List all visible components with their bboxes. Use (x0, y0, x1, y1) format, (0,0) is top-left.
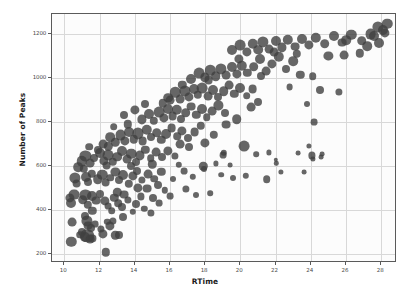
scatter-plot-figure: 20040060080010001200 1012141618202224262… (0, 0, 410, 295)
scatter-point (181, 167, 188, 174)
scatter-point (68, 218, 77, 227)
scatter-point (341, 35, 351, 45)
y-tick-mark (48, 77, 51, 78)
scatter-point (221, 109, 229, 117)
x-tick-mark (380, 262, 381, 265)
scatter-point (320, 39, 330, 49)
scatter-point (134, 183, 143, 192)
scatter-point (182, 185, 189, 192)
x-tick-mark (310, 262, 311, 265)
scatter-point (166, 96, 175, 105)
scatter-point (101, 248, 109, 256)
scatter-point (102, 161, 111, 170)
scatter-point (94, 146, 102, 154)
scatter-point (150, 117, 158, 125)
scatter-point (335, 88, 342, 95)
scatter-point (156, 200, 163, 207)
scatter-point (130, 105, 139, 114)
scatter-point (141, 100, 149, 108)
y-tick-label: 400 (21, 206, 46, 212)
y-tick-mark (48, 165, 51, 166)
scatter-point (320, 152, 325, 157)
scatter-point (266, 150, 271, 155)
x-tick-label: 10 (60, 267, 67, 273)
scatter-point (227, 163, 232, 168)
scatter-point (309, 72, 317, 80)
x-tick-label: 28 (377, 267, 384, 273)
x-tick-label: 22 (271, 267, 278, 273)
x-tick-label: 24 (306, 267, 313, 273)
scatter-point (147, 209, 154, 216)
scatter-point (110, 123, 118, 131)
x-tick-mark (134, 262, 135, 265)
scatter-point (218, 172, 224, 178)
scatter-point (172, 153, 179, 160)
x-tick-mark (169, 262, 170, 265)
scatter-point (253, 151, 259, 157)
scatter-point (310, 156, 315, 161)
scatter-point (296, 151, 301, 156)
scatter-point (282, 65, 290, 73)
scatter-point (190, 173, 196, 179)
scatter-point (311, 119, 318, 126)
scatter-point (369, 31, 379, 41)
scatter-point (141, 145, 149, 153)
scatter-point (143, 184, 152, 193)
x-tick-mark (204, 262, 205, 265)
scatter-point (118, 203, 126, 211)
gridline-horizontal (52, 210, 395, 211)
scatter-point (230, 175, 236, 181)
scatter-point (274, 161, 278, 165)
scatter-point (304, 41, 313, 50)
scatter-point (255, 54, 265, 64)
gridline-vertical (170, 14, 171, 261)
scatter-point (124, 196, 131, 203)
scatter-point (288, 57, 298, 67)
gridline-vertical (100, 14, 101, 261)
scatter-point (120, 136, 129, 145)
scatter-point (167, 124, 176, 133)
scatter-point (329, 31, 339, 41)
scatter-point (269, 47, 278, 56)
scatter-point (356, 49, 364, 57)
x-tick-mark (99, 262, 100, 265)
scatter-point (137, 193, 144, 200)
scatter-point (138, 137, 147, 146)
x-tick-label: 12 (95, 267, 102, 273)
scatter-point (238, 141, 249, 152)
scatter-point (119, 213, 127, 221)
scatter-point (154, 181, 162, 189)
scatter-point (301, 170, 306, 175)
scatter-point (278, 169, 283, 174)
scatter-point (132, 200, 140, 208)
y-tick-mark (48, 209, 51, 210)
scatter-point (254, 98, 262, 106)
scatter-point (232, 115, 242, 125)
scatter-point (72, 179, 81, 188)
y-axis-label: Number of Peaks (18, 60, 27, 200)
scatter-point (109, 217, 116, 224)
scatter-point (248, 85, 257, 94)
scatter-point (157, 167, 165, 175)
x-tick-label: 18 (201, 267, 208, 273)
scatter-point (197, 122, 205, 130)
x-tick-mark (345, 262, 346, 265)
scatter-point (76, 231, 84, 239)
scatter-point (124, 179, 132, 187)
scatter-point (286, 83, 293, 90)
scatter-point (201, 166, 207, 172)
scatter-point (98, 229, 107, 238)
scatter-point (214, 101, 223, 110)
y-tick-mark (48, 33, 51, 34)
scatter-point (340, 50, 349, 59)
scatter-point (263, 175, 271, 183)
x-tick-label: 14 (130, 267, 137, 273)
x-tick-mark (63, 262, 64, 265)
scatter-point (316, 86, 324, 94)
scatter-point (127, 162, 135, 170)
scatter-point (167, 192, 174, 199)
scatter-point (89, 235, 96, 242)
x-tick-label: 26 (341, 267, 348, 273)
gridline-vertical (311, 14, 312, 261)
scatter-point (362, 41, 372, 51)
